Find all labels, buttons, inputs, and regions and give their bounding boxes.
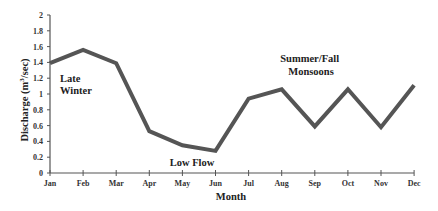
y-tick-label: 0.8 bbox=[33, 106, 43, 115]
y-tick-label: 0.6 bbox=[33, 122, 43, 131]
y-axis-title: Discharge (m3/sec) bbox=[18, 58, 31, 142]
y-axis: 00.20.40.60.811.21.41.61.82 bbox=[33, 11, 50, 178]
annotation-low-flow: Low Flow bbox=[170, 157, 215, 168]
x-tick-label: Feb bbox=[77, 179, 90, 188]
x-tick-label: Oct bbox=[342, 179, 355, 188]
x-tick-label: Jan bbox=[44, 179, 57, 188]
y-tick-label: 0.4 bbox=[33, 137, 43, 146]
x-tick-label: Dec bbox=[408, 179, 421, 188]
x-tick-label: Sep bbox=[309, 179, 322, 188]
x-axis-title: Month bbox=[216, 191, 246, 202]
x-tick-label: May bbox=[175, 179, 191, 188]
y-tick-label: 1.4 bbox=[33, 58, 43, 67]
x-axis: JanFebMarAprMayJunJulAugSepOctNovDec bbox=[44, 170, 421, 188]
x-tick-label: Apr bbox=[142, 179, 156, 188]
y-tick-label: 1 bbox=[39, 90, 43, 99]
x-tick-label: Jul bbox=[243, 179, 254, 188]
y-tick-label: 1.8 bbox=[33, 27, 43, 36]
y-tick-label: 0 bbox=[39, 169, 43, 178]
annotation-summer-fall-monsoons: Summer/Fall Monsoons bbox=[280, 53, 342, 77]
y-tick-label: 2 bbox=[39, 11, 43, 20]
annotation-late-winter: Late Winter bbox=[60, 73, 92, 96]
y-tick-label: 0.2 bbox=[33, 153, 43, 162]
discharge-line bbox=[50, 50, 414, 151]
series-discharge bbox=[50, 50, 414, 151]
x-tick-label: Mar bbox=[109, 179, 125, 188]
x-tick-label: Jun bbox=[209, 179, 222, 188]
discharge-line-chart: 00.20.40.60.811.21.41.61.82 JanFebMarApr… bbox=[0, 0, 438, 211]
chart-canvas: 00.20.40.60.811.21.41.61.82 JanFebMarApr… bbox=[0, 0, 438, 211]
y-tick-label: 1.6 bbox=[33, 43, 43, 52]
x-tick-label: Aug bbox=[275, 179, 289, 188]
x-tick-label: Nov bbox=[374, 179, 388, 188]
y-tick-label: 1.2 bbox=[33, 74, 43, 83]
